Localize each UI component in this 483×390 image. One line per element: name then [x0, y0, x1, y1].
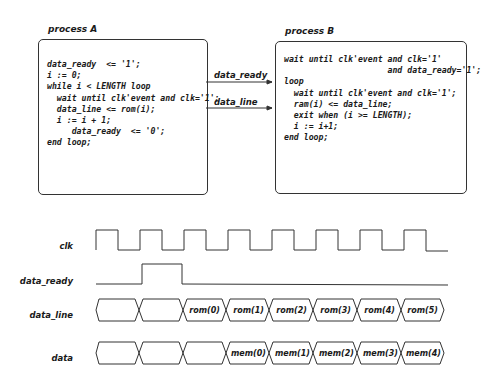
clk-waveform — [96, 230, 448, 251]
bus-segment-label: mem(4) — [406, 349, 441, 358]
bus-segment-label: rom(1) — [233, 306, 264, 315]
bus-segment-label: mem(0) — [231, 349, 266, 358]
arrow-head-icon — [267, 80, 272, 84]
diagram-graphics: rom(0) rom(1) rom(2) rom(3) rom(4) rom(5… — [0, 0, 483, 390]
bus-segment-label: rom(2) — [276, 306, 307, 315]
bus-segment-label: rom(3) — [320, 306, 351, 315]
wire-data-line — [206, 106, 272, 110]
bus-segment-label: rom(5) — [407, 306, 438, 315]
wire-data-ready — [206, 80, 272, 84]
bus-segment-label: mem(2) — [319, 349, 354, 358]
bus-segment-label: mem(1) — [275, 349, 310, 358]
bus-segment-label: rom(0) — [189, 306, 220, 315]
arrow-head-icon — [267, 106, 272, 110]
data-ready-waveform — [96, 264, 448, 285]
bus-segment-label: rom(4) — [364, 306, 395, 315]
bus-segment-label: mem(3) — [363, 349, 398, 358]
